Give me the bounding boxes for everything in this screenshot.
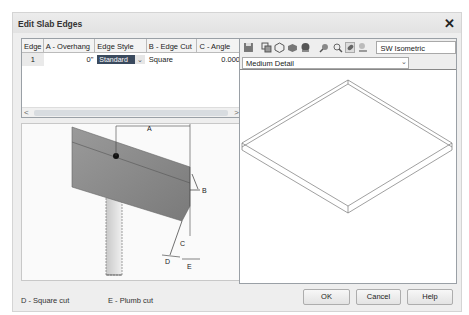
detail-level-row: Medium Detail ⌄ [240,56,456,70]
zoom-extents-icon[interactable] [319,42,330,53]
detail-level-value: Medium Detail [246,59,294,68]
edge-cut-cell[interactable]: Square [147,53,198,66]
label-e: E [187,263,192,270]
edge-style-cell: Standard ⌄ [95,53,147,66]
column-header-edge[interactable]: Edge [22,39,44,52]
edge-number-cell[interactable]: 1 [22,53,44,66]
column-header-edge-cut[interactable]: B - Edge Cut [147,39,198,52]
edge-style-value[interactable]: Standard [97,55,135,64]
copy-view-icon[interactable] [261,42,272,53]
orbit-icon[interactable] [345,42,356,53]
edit-slab-edges-dialog: Edit Slab Edges ✕ Edge A - Overhang Edge… [12,12,462,312]
edge-diagram: A B C D E [21,123,243,281]
edges-table: Edge A - Overhang Edge Style B - Edge Cu… [21,38,243,118]
label-d: D [165,258,170,265]
globe-render-icon[interactable] [300,42,311,53]
ok-button[interactable]: OK [303,289,350,305]
wireframe-box-icon[interactable] [274,42,285,53]
dialog-title: Edit Slab Edges [18,19,82,29]
scroll-left-icon[interactable]: < [24,108,29,117]
table-header: Edge A - Overhang Edge Style B - Edge Cu… [22,39,242,53]
note-plumb-cut: E - Plumb cut [108,296,153,305]
chevron-down-icon[interactable]: ⌄ [401,58,407,66]
label-c: C [180,240,185,247]
scrollbar-thumb[interactable] [34,110,228,116]
table-row[interactable]: 1 0" Standard ⌄ Square 0.000 [22,53,242,66]
label-b: B [202,187,207,194]
edge-style-dropdown[interactable]: Standard ⌄ [95,54,147,64]
lighting-icon[interactable] [357,42,368,53]
close-icon[interactable]: ✕ [444,16,455,31]
title-bar: Edit Slab Edges ✕ [13,13,461,33]
save-icon[interactable] [243,42,254,53]
slab-3d-preview[interactable] [240,70,456,283]
angle-cell[interactable]: 0.000 [197,53,242,66]
shaded-box-icon[interactable] [287,42,298,53]
column-header-angle[interactable]: C - Angle [197,39,242,52]
detail-level-select[interactable]: Medium Detail ⌄ [242,57,409,69]
help-button[interactable]: Help [407,289,453,305]
column-header-overhang[interactable]: A - Overhang [44,39,96,52]
overhang-cell[interactable]: 0" [44,53,96,66]
view-direction-select[interactable]: SW Isometric [376,41,456,54]
column-header-edge-style[interactable]: Edge Style [95,39,147,52]
viewer-toolbar: SW Isometric [240,39,456,56]
cancel-button[interactable]: Cancel [356,289,401,305]
horizontal-scrollbar[interactable]: < > [22,107,242,117]
zoom-window-icon[interactable] [332,42,343,53]
preview-viewer: SW Isometric Medium Detail ⌄ [239,38,457,284]
slab-shape [72,127,190,221]
chevron-down-icon[interactable]: ⌄ [135,55,144,64]
slab-edge-illustration: A B C D E [22,124,244,282]
label-a: A [147,125,152,132]
note-square-cut: D - Square cut [21,296,69,305]
